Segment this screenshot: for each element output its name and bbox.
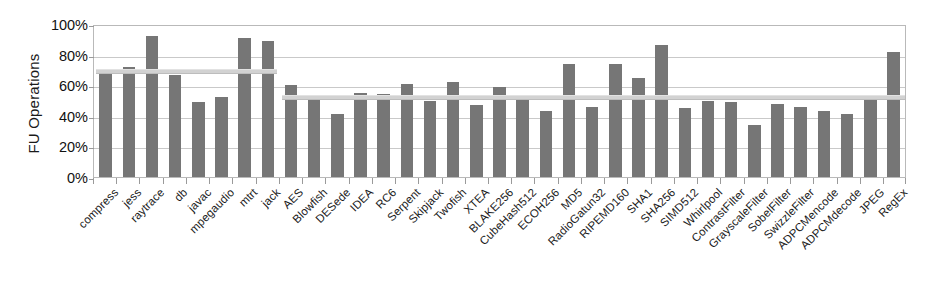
bar-slot: [349, 26, 372, 177]
x-axis-tick-mark: [465, 178, 488, 185]
x-axis-tick-mark: [813, 178, 836, 185]
bar-slot: [256, 26, 279, 177]
x-axis-tick-mark: [116, 178, 139, 185]
bar-slot: [233, 26, 256, 177]
bar[interactable]: [864, 96, 877, 177]
bar-slot: [372, 26, 395, 177]
bar-slot: [187, 26, 210, 177]
average-line-java: [96, 69, 277, 74]
bar-series: [94, 26, 905, 177]
bar-slot: [511, 26, 534, 177]
bar[interactable]: [771, 104, 784, 177]
bar-slot: [418, 26, 441, 177]
bar[interactable]: [99, 70, 112, 177]
bar-slot: [581, 26, 604, 177]
bar-slot: [488, 26, 511, 177]
x-axis-tick-label: jack: [259, 186, 282, 209]
bar-slot: [766, 26, 789, 177]
bar-slot: [465, 26, 488, 177]
x-axis-tick-mark: [372, 178, 395, 185]
bar-slot: [395, 26, 418, 177]
x-axis-tick-label: db: [172, 186, 190, 204]
x-axis-tick-mark: [488, 178, 511, 185]
bar[interactable]: [586, 107, 599, 177]
bar[interactable]: [655, 45, 668, 177]
x-axis-tick-mark: [534, 178, 557, 185]
x-axis-tick-mark: [651, 178, 674, 185]
x-axis-tick-mark: [442, 178, 465, 185]
x-axis-tick-mark: [558, 178, 581, 185]
x-axis-tick-label: IDEA: [348, 186, 376, 214]
bar-slot: [789, 26, 812, 177]
x-axis-tick-mark: [256, 178, 279, 185]
bar[interactable]: [424, 101, 437, 178]
bar[interactable]: [169, 75, 182, 178]
x-axis-tick-mark: [511, 178, 534, 185]
bar-slot: [627, 26, 650, 177]
x-axis-tick-mark: [395, 178, 418, 185]
bar[interactable]: [470, 105, 483, 177]
y-axis-tick-label: 0%: [32, 170, 88, 186]
bar[interactable]: [540, 111, 553, 177]
x-axis-tick-mark: [697, 178, 720, 185]
x-axis-tick-mark: [674, 178, 697, 185]
bar[interactable]: [123, 67, 136, 177]
x-axis-tick-mark: [209, 178, 232, 185]
bar-slot: [650, 26, 673, 177]
x-axis-tick-mark: [627, 178, 650, 185]
x-axis-tick-mark: [883, 178, 906, 185]
x-axis-tick-mark: [279, 178, 302, 185]
bar[interactable]: [192, 102, 205, 177]
bar-slot: [604, 26, 627, 177]
bar[interactable]: [146, 36, 159, 177]
bar[interactable]: [238, 38, 251, 177]
bar-chart: FU Operations 100%80%60%40%20%0% compres…: [0, 0, 939, 286]
plot-area: [93, 25, 906, 178]
bar[interactable]: [725, 102, 738, 177]
bar[interactable]: [818, 111, 831, 177]
bar[interactable]: [841, 114, 854, 177]
bar-slot: [557, 26, 580, 177]
bar-slot: [94, 26, 117, 177]
bar[interactable]: [609, 64, 622, 177]
bar[interactable]: [354, 93, 367, 177]
bar[interactable]: [679, 108, 692, 177]
bar[interactable]: [331, 114, 344, 177]
average-line-native: [282, 95, 905, 100]
bar-slot: [326, 26, 349, 177]
bar[interactable]: [516, 99, 529, 177]
x-axis-tick-label: mtrt: [237, 186, 260, 209]
y-axis-tick-label: 60%: [32, 78, 88, 94]
bar-slot: [117, 26, 140, 177]
y-axis-tick-label: 20%: [32, 139, 88, 155]
bar[interactable]: [308, 96, 321, 177]
bar-slot: [279, 26, 302, 177]
bar[interactable]: [748, 125, 761, 177]
x-axis-tick-mark: [837, 178, 860, 185]
x-axis-ticks: [93, 178, 906, 185]
bar[interactable]: [702, 101, 715, 178]
bar[interactable]: [262, 41, 275, 177]
bar-slot: [836, 26, 859, 177]
x-axis-tick-mark: [860, 178, 883, 185]
bar[interactable]: [887, 52, 900, 177]
y-axis-tick-label: 40%: [32, 109, 88, 125]
x-axis-tick-mark: [790, 178, 813, 185]
bar[interactable]: [794, 107, 807, 177]
x-axis-tick-labels: compressjessraytracedbjavacmpegaudiomtrt…: [93, 186, 906, 286]
bar[interactable]: [377, 94, 390, 177]
x-axis-tick-mark: [604, 178, 627, 185]
x-axis-tick-mark: [767, 178, 790, 185]
x-axis-tick-mark: [744, 178, 767, 185]
x-axis-tick-mark: [163, 178, 186, 185]
x-axis-tick-mark: [325, 178, 348, 185]
bar[interactable]: [632, 78, 645, 177]
bar-slot: [696, 26, 719, 177]
bar[interactable]: [215, 97, 228, 177]
bar[interactable]: [563, 64, 576, 177]
bar-slot: [164, 26, 187, 177]
x-axis-tick-mark: [418, 178, 441, 185]
x-axis-tick-mark: [720, 178, 743, 185]
x-axis-tick-mark: [186, 178, 209, 185]
bar-slot: [743, 26, 766, 177]
